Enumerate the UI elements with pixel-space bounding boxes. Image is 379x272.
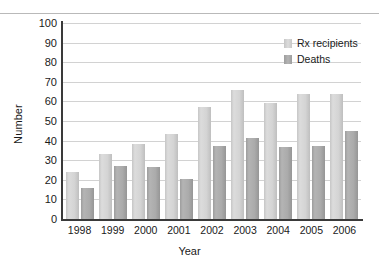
- x-axis-line: [61, 219, 363, 221]
- top-divider: [0, 13, 379, 14]
- x-tick-label: 2003: [233, 224, 256, 236]
- bar-group: 1998: [63, 23, 96, 219]
- bar: [132, 144, 145, 219]
- x-tick-label: 2006: [333, 224, 356, 236]
- x-axis-title: Year: [0, 245, 379, 257]
- bar: [345, 131, 358, 219]
- bar: [81, 188, 94, 219]
- bar: [279, 147, 292, 219]
- chart-legend: Rx recipients Deaths: [284, 36, 358, 68]
- y-tick-label: 10: [45, 193, 57, 205]
- bar: [246, 138, 259, 219]
- y-tick-label: 100: [39, 17, 57, 29]
- y-tick-label: 50: [45, 115, 57, 127]
- chart-figure: Number 0102030405060708090100 1998199920…: [0, 0, 379, 272]
- bar: [231, 90, 244, 219]
- bar-group: 2003: [229, 23, 262, 219]
- x-tick-label: 1998: [68, 224, 91, 236]
- x-tick-label: 2004: [267, 224, 290, 236]
- bar: [165, 134, 178, 219]
- bar-group: 1999: [96, 23, 129, 219]
- y-tick-label: 70: [45, 76, 57, 88]
- bar: [180, 179, 193, 219]
- legend-item-deaths: Deaths: [284, 52, 358, 66]
- bar: [330, 94, 343, 219]
- bar: [114, 166, 127, 219]
- x-tick-label: 2000: [134, 224, 157, 236]
- bar: [147, 167, 160, 219]
- bar: [99, 154, 112, 219]
- bar: [66, 172, 79, 219]
- legend-swatch-icon-rx-recipients: [284, 39, 292, 48]
- bar-group: 2001: [162, 23, 195, 219]
- y-tick-label: 20: [45, 174, 57, 186]
- bar-group: 2000: [129, 23, 162, 219]
- bar: [264, 103, 277, 219]
- bar-group: 2002: [195, 23, 228, 219]
- x-tick-label: 2002: [200, 224, 223, 236]
- y-tick-label: 30: [45, 154, 57, 166]
- legend-label-rx-recipients: Rx recipients: [297, 37, 358, 49]
- x-tick-label: 1999: [101, 224, 124, 236]
- x-tick-label: 2001: [167, 224, 190, 236]
- y-tick-label: 0: [51, 213, 57, 225]
- legend-swatch-icon-deaths: [284, 55, 292, 64]
- bar: [213, 146, 226, 220]
- legend-item-rx-recipients: Rx recipients: [284, 36, 358, 50]
- y-tick-label: 90: [45, 37, 57, 49]
- y-tick-label: 60: [45, 95, 57, 107]
- bar: [198, 107, 211, 219]
- bar: [297, 94, 310, 219]
- x-tick-label: 2005: [300, 224, 323, 236]
- y-tick-label: 40: [45, 135, 57, 147]
- y-tick-label: 80: [45, 56, 57, 68]
- y-axis-title: Number: [12, 79, 24, 169]
- bar: [312, 146, 325, 219]
- legend-label-deaths: Deaths: [297, 53, 330, 65]
